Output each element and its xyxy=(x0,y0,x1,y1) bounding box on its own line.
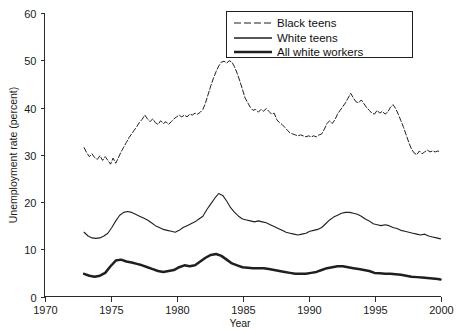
y-tick-label: 20 xyxy=(24,197,36,209)
x-tick-label: 1970 xyxy=(33,304,57,316)
legend: Black teens White teens All white worker… xyxy=(227,12,413,59)
x-tick-group xyxy=(46,297,442,302)
series-line-black-teens xyxy=(84,61,440,164)
y-tick-label: 60 xyxy=(24,8,36,20)
y-tick-label-group: 0102030405060 xyxy=(24,8,36,304)
x-tick-label: 1995 xyxy=(363,304,387,316)
x-tick-label: 1990 xyxy=(297,304,321,316)
data-series-group xyxy=(84,61,440,280)
x-tick-label: 1985 xyxy=(231,304,255,316)
y-tick-label: 50 xyxy=(24,55,36,67)
x-axis-title: Year xyxy=(229,317,251,329)
legend-label-all-white-workers: All white workers xyxy=(277,46,364,58)
x-tick-label-group: 1970197519801985199019952000 xyxy=(33,304,453,316)
series-line-all-white-workers xyxy=(84,254,440,280)
x-tick-label: 1980 xyxy=(165,304,189,316)
unemployment-rate-line-chart: 0102030405060 19701975198019851990199520… xyxy=(0,0,461,332)
y-axis-title: Unemployment rate (percent) xyxy=(7,87,19,224)
series-line-white-teens xyxy=(84,194,440,239)
y-tick-label: 40 xyxy=(24,103,36,115)
y-tick-group xyxy=(41,14,45,298)
legend-label-white-teens: White teens xyxy=(277,32,338,44)
x-tick-label: 1975 xyxy=(99,304,123,316)
y-tick-label: 30 xyxy=(24,150,36,162)
legend-label-black-teens: Black teens xyxy=(277,17,337,29)
chart-container: 0102030405060 19701975198019851990199520… xyxy=(0,0,461,332)
y-tick-label: 0 xyxy=(30,292,36,304)
x-tick-label: 2000 xyxy=(429,304,453,316)
y-tick-label: 10 xyxy=(24,244,36,256)
